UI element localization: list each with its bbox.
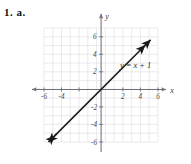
y-tick-label-neg2: -2	[91, 104, 97, 112]
x-tick-label-6: 6	[156, 93, 160, 101]
x-tick-label-2: 2	[121, 93, 125, 101]
y-tick-label-2: 2	[93, 68, 97, 76]
x-tick-label-neg6: -6	[41, 93, 47, 101]
equation-label: y = x + 1	[119, 61, 151, 70]
y-tick-label-4: 4	[93, 51, 97, 59]
y-tick-label-6: 6	[93, 33, 97, 41]
y-tick-label-neg6: -6	[91, 139, 97, 147]
y-tick-label-neg4: -4	[91, 121, 97, 129]
x-tick-label-4: 4	[139, 93, 143, 101]
x-tick-label-neg4: -4	[59, 93, 65, 101]
figure-container: 1. a.	[0, 0, 191, 164]
y-axis-label: y	[104, 12, 109, 21]
problem-label: 1. a.	[4, 6, 26, 18]
x-axis-label: x	[169, 86, 174, 95]
coordinate-plane-graph: -6 -4 2 4 6 6 4 2 -2 -4 -6 x y y = x + 1	[0, 0, 191, 164]
